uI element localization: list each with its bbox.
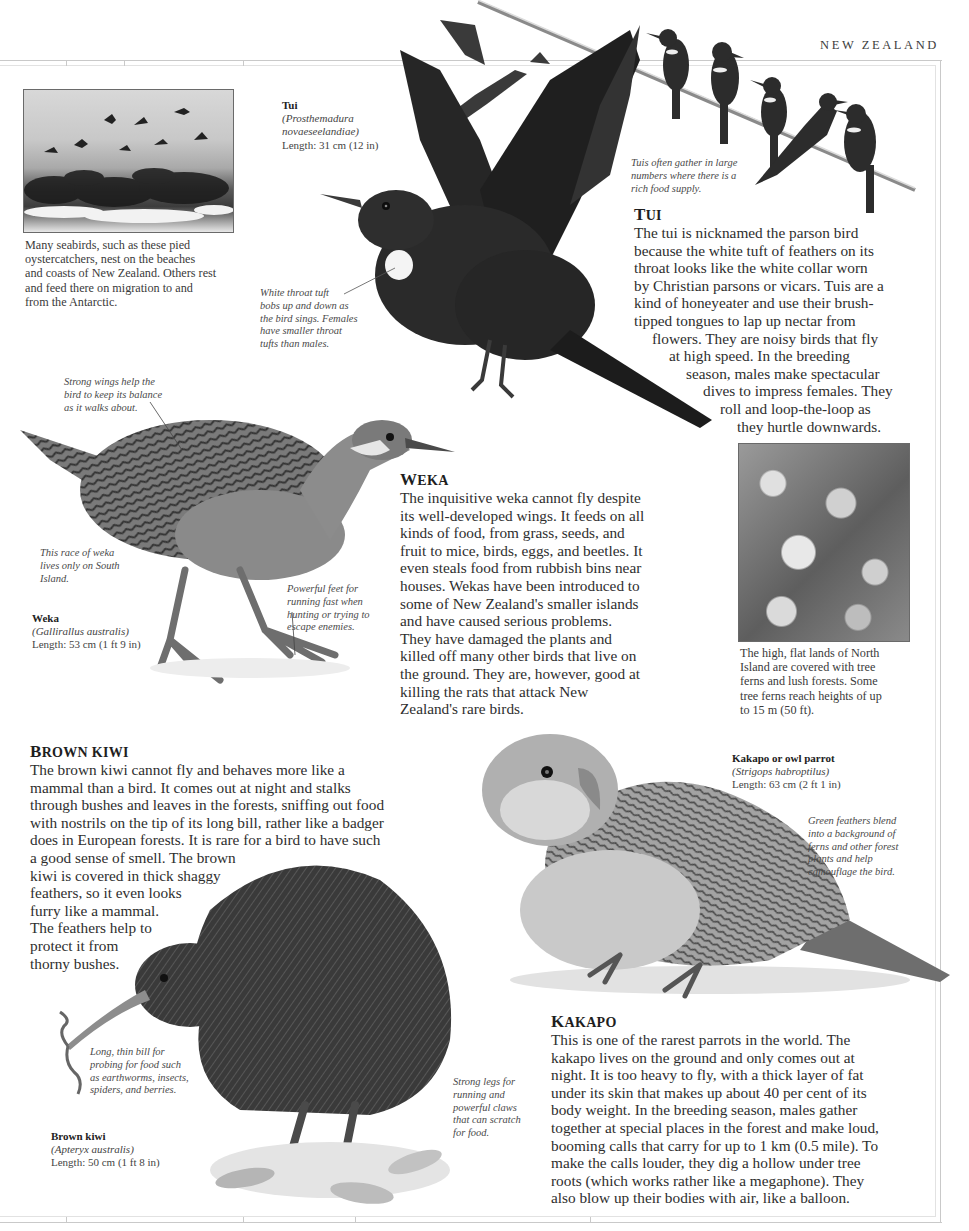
forest-caption: The high, flat lands of North Island are… [740,646,882,717]
frame-tick [590,1217,591,1222]
kakapo-feathers-annotation: Green feathers blend into a background o… [808,815,898,879]
tui-flock-annotation: Tuis often gather in large numbers where… [631,157,737,195]
weka-heading: WEKA [400,471,644,489]
tui-throat-annotation: White throat tuft bobs up and down as th… [260,287,358,351]
frame-tick [124,61,125,66]
weka-beak-icon [405,438,455,452]
brown-kiwi-species-label: Brown kiwi (Apteryx australis) Length: 5… [51,1130,160,1170]
page-frame-bottom-inner [0,1216,936,1217]
frame-tick [355,1217,356,1222]
tui-heading: TUI [634,206,893,224]
page-frame-bottom [0,1222,942,1223]
tui-beak-icon [320,194,362,208]
throat-tuft-icon [385,250,413,280]
weka-feet-annotation: Powerful feet for running fast when hunt… [287,583,370,634]
frame-tick [66,1217,67,1222]
seabirds-caption: Many seabirds, such as these pied oyster… [25,238,216,309]
kakapo-article: KAKAPO This is one of the rarest parrots… [551,1013,879,1207]
frame-tick [243,61,244,66]
page-frame-right [940,60,941,1222]
tui-article: TUI The tui is nicknamed the parson bird… [634,206,893,435]
weka-species-label: Weka (Gallirallus australis) Length: 53 … [32,612,141,652]
weka-article: WEKA The inquisitive weka cannot fly des… [400,471,644,718]
weka-race-annotation: This race of weka lives only on South Is… [40,547,120,585]
frame-tick [243,1217,244,1222]
kiwi-bill-annotation: Long, thin bill for probing for food suc… [90,1046,189,1097]
forest-photo [738,443,910,642]
earthworm-icon [60,1012,80,1094]
kiwi-bill-icon [66,990,150,1050]
kiwi-legs-annotation: Strong legs for running and powerful cla… [453,1076,521,1140]
seabirds-photo [23,89,234,233]
kakapo-species-label: Kakapo or owl parrot (Strigops habroptil… [732,752,841,792]
oystercatchers-flock-icon [24,90,233,232]
frame-tick [66,61,67,66]
brown-kiwi-heading: BROWN KIWI [30,743,384,761]
kakapo-heading: KAKAPO [551,1013,879,1031]
